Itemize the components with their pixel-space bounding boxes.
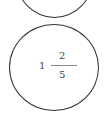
top-ellipse (16, 0, 93, 18)
mixed-number-whole: 1 (39, 61, 45, 71)
fraction-bar (51, 65, 77, 66)
fraction-denominator: 5 (59, 70, 65, 80)
bottom-ellipse (9, 24, 99, 111)
fraction-numerator: 2 (59, 51, 65, 61)
